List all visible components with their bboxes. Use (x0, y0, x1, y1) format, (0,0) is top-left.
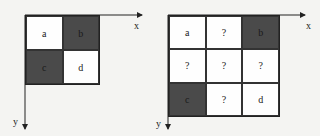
grid-cell: a (26, 16, 63, 50)
grid-cell: a (169, 16, 206, 49)
grid-cell-shaded: c (26, 50, 63, 84)
grid-cell: ? (169, 49, 206, 82)
right-grid: a ? b ? ? ? c ? d (168, 15, 280, 117)
grid-cell: ? (206, 16, 243, 49)
grid-cell: d (63, 50, 100, 84)
left-x-label: x (134, 20, 139, 31)
grid-cell: ? (242, 49, 279, 82)
grid-cell-shaded: c (169, 83, 206, 116)
right-x-label: x (306, 20, 311, 31)
grid-cell-shaded: b (242, 16, 279, 49)
grid-cell: d (242, 83, 279, 116)
left-grid: a b c d (25, 15, 100, 85)
grid-cell-shaded: b (63, 16, 100, 50)
right-y-label: y (156, 118, 161, 129)
grid-cell: ? (206, 49, 243, 82)
left-y-label: y (13, 116, 18, 127)
grid-cell: ? (206, 83, 243, 116)
